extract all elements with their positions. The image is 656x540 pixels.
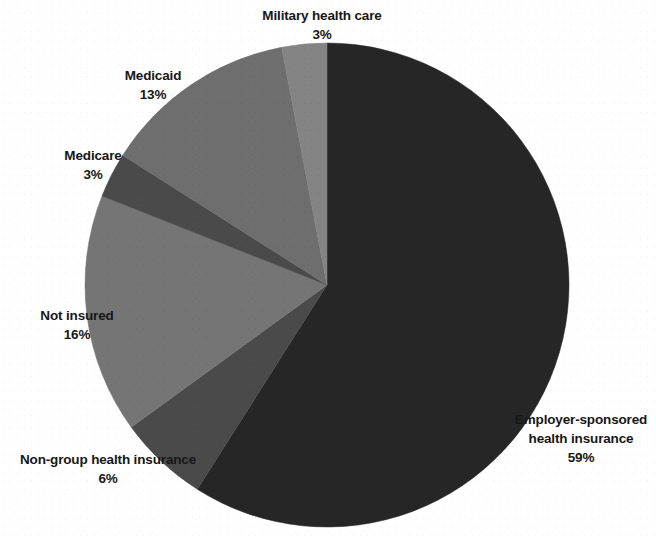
slice-label-not-insured-value: 16% [0,325,162,344]
pie-chart-figure: Military health care 3% Medicaid 13% Med… [0,0,656,540]
slice-label-medicaid: Medicaid 13% [68,66,238,104]
slice-label-employer-sponsored-health-insurance: Employer-sponsored health insurance 59% [508,410,654,467]
slice-label-non-group-health-insurance: Non-group health insurance 6% [0,450,218,488]
slice-label-not-insured-name: Not insured [0,306,162,325]
slice-label-medicare-value: 3% [8,165,178,184]
slice-label-employer-sponsored-line2: health insurance [508,429,654,448]
slice-label-military-health-care-name: Military health care [232,6,412,25]
slice-label-medicaid-value: 13% [68,85,238,104]
slice-label-medicare: Medicare 3% [8,146,178,184]
slice-label-non-group-health-insurance-name: Non-group health insurance [0,450,218,469]
slice-label-medicaid-name: Medicaid [68,66,238,85]
slice-label-military-health-care-value: 3% [232,25,412,44]
slice-label-medicare-name: Medicare [8,146,178,165]
slice-label-military-health-care: Military health care 3% [232,6,412,44]
slice-label-employer-sponsored-value: 59% [508,448,654,467]
slice-label-non-group-health-insurance-value: 6% [0,469,218,488]
slice-label-not-insured: Not insured 16% [0,306,162,344]
slice-label-employer-sponsored-line1: Employer-sponsored [508,410,654,429]
